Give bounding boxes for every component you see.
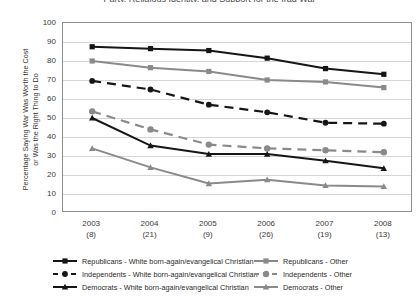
y-axis-label: Percentage Saying War Was Worth the Cost…: [21, 20, 40, 220]
legend-key-solid-square-gray-icon: [253, 256, 279, 266]
y-tick-label: 50: [47, 113, 56, 122]
series-line: [92, 61, 384, 88]
series-3: [90, 109, 387, 155]
plot-area: [62, 22, 412, 212]
data-point-marker: [381, 121, 387, 127]
y-tick-label: 0: [52, 208, 56, 217]
data-point-marker: [148, 127, 153, 132]
x-tick-count: (19): [316, 229, 334, 240]
data-point-marker: [148, 46, 153, 51]
data-point-marker: [265, 56, 270, 61]
legend-item[interactable]: Republicans - White born-again/evangelic…: [52, 256, 254, 266]
legend-key-solid-triangle-black-icon: [52, 282, 78, 292]
legend-key-solid-triangle-gray-icon: [253, 282, 279, 292]
x-tick-count: (9): [199, 229, 217, 240]
legend-item[interactable]: Republicans - Other: [253, 256, 348, 266]
x-tick-count: (13): [374, 229, 392, 240]
data-point-marker: [381, 85, 386, 90]
x-tick-label: 2008(13): [374, 218, 392, 240]
data-point-marker: [90, 58, 95, 63]
legend-label: Democrats - Other: [283, 283, 343, 292]
y-tick-label: 60: [47, 94, 56, 103]
legend-item[interactable]: Independents - White born-again/evangeli…: [52, 269, 258, 279]
y-tick-label: 100: [43, 18, 56, 27]
data-point-marker: [265, 77, 270, 82]
y-tick-label: 30: [47, 151, 56, 160]
y-tick-label: 10: [47, 189, 56, 198]
x-tick-label: 2004(21): [141, 218, 159, 240]
legend-key-dashed-circle-black-icon: [52, 269, 78, 279]
data-point-marker: [323, 148, 328, 153]
y-axis-label-line2: or Was the Right Thing to Do: [30, 20, 40, 220]
y-axis-label-line1: Percentage Saying War Was Worth the Cost: [21, 20, 31, 220]
data-point-marker: [263, 258, 268, 263]
x-tick-count: (21): [141, 229, 159, 240]
y-tick-label: 80: [47, 56, 56, 65]
legend-item[interactable]: Democrats - White born-again/evangelical…: [52, 282, 249, 292]
data-point-marker: [90, 44, 95, 49]
y-tick-label: 40: [47, 132, 56, 141]
data-point-marker: [263, 271, 268, 276]
series-0: [90, 44, 387, 77]
series-line: [92, 111, 384, 152]
x-tick-label: 2005(9): [199, 218, 217, 240]
y-tick-label: 90: [47, 37, 56, 46]
legend-label: Independents - Other: [283, 270, 352, 279]
legend-label: Republicans - White born-again/evangelic…: [82, 257, 254, 266]
data-point-marker: [323, 66, 328, 71]
data-point-marker: [381, 72, 386, 77]
chart-figure: Party, Religious Identity, and Support f…: [0, 0, 419, 297]
gridline: [63, 213, 411, 214]
data-point-marker: [206, 69, 211, 74]
data-point-marker: [264, 109, 270, 115]
chart-title: Party, Religious Identity, and Support f…: [0, 0, 419, 2]
data-point-marker: [89, 115, 95, 121]
data-point-marker: [381, 150, 386, 155]
x-tick-year: 2006: [257, 218, 275, 229]
data-point-marker: [62, 271, 68, 277]
series-layer: [63, 23, 413, 213]
data-point-marker: [323, 79, 328, 84]
series-line: [92, 47, 384, 75]
data-point-marker: [206, 48, 211, 53]
data-point-marker: [148, 87, 154, 93]
data-point-marker: [89, 78, 95, 84]
x-tick-label: 2006(26): [257, 218, 275, 240]
data-point-marker: [90, 109, 95, 114]
series-1: [90, 58, 387, 90]
data-point-marker: [323, 120, 329, 126]
data-point-marker: [265, 146, 270, 151]
legend-label: Republicans - Other: [283, 257, 348, 266]
y-tick-label: 20: [47, 170, 56, 179]
data-point-marker: [62, 258, 67, 263]
x-tick-year: 2004: [141, 218, 159, 229]
legend-item[interactable]: Democrats - Other: [253, 282, 343, 292]
legend-key-dashed-circle-open-gray-icon: [253, 269, 279, 279]
x-tick-label: 2007(19): [316, 218, 334, 240]
data-point-marker: [148, 65, 153, 70]
x-tick-year: 2003: [82, 218, 100, 229]
chart-legend: Republicans - White born-again/evangelic…: [48, 256, 419, 296]
x-tick-count: (26): [257, 229, 275, 240]
legend-label: Independents - White born-again/evangeli…: [82, 270, 258, 279]
x-tick-count: (8): [82, 229, 100, 240]
legend-label: Democrats - White born-again/evangelical…: [82, 283, 249, 292]
series-2: [89, 78, 386, 127]
legend-item[interactable]: Independents - Other: [253, 269, 352, 279]
data-point-marker: [206, 142, 211, 147]
series-line: [92, 81, 384, 124]
data-point-marker: [206, 102, 212, 108]
x-tick-year: 2005: [199, 218, 217, 229]
y-tick-label: 70: [47, 75, 56, 84]
x-tick-label: 2003(8): [82, 218, 100, 240]
x-tick-year: 2008: [374, 218, 392, 229]
legend-key-solid-square-black-icon: [52, 256, 78, 266]
x-tick-year: 2007: [316, 218, 334, 229]
